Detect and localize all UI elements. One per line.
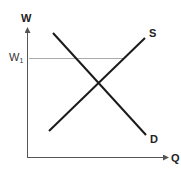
demand-curve [53, 33, 146, 135]
supply-label: S [149, 28, 156, 39]
w1-label: W1 [9, 52, 23, 64]
y-axis-label: W [21, 13, 31, 24]
w1-label-main: W [9, 51, 19, 63]
demand-label: D [150, 134, 158, 145]
w1-label-sub: 1 [19, 57, 23, 64]
x-axis-label: Q [171, 153, 180, 164]
